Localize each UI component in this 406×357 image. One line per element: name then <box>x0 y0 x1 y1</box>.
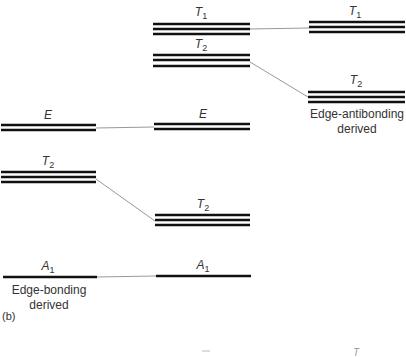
caption-edge-bonding: Edge-bonding derived <box>12 283 87 313</box>
level-right-t2 <box>308 92 405 102</box>
connector-t2-upper <box>250 62 308 97</box>
label-mid-t2-upper: T2 <box>195 38 207 53</box>
caption-line-1: Edge-bonding <box>12 283 87 298</box>
connector-t1 <box>250 28 309 29</box>
connector-t2-lower <box>96 179 155 221</box>
connector-e <box>96 127 154 128</box>
level-mid-t2-upper <box>153 55 250 66</box>
label-right-t2: T2 <box>350 74 362 89</box>
connector-a1 <box>97 276 156 277</box>
label-left-a1: A1 <box>41 260 54 275</box>
caption-line-2: derived <box>12 298 87 313</box>
label-left-e: E <box>44 109 52 121</box>
label-mid-t2-lower: T2 <box>197 198 209 213</box>
cropped-label-fragment: T <box>353 347 359 357</box>
level-left-t2 <box>1 172 96 182</box>
panel-label: (b) <box>2 310 15 322</box>
level-mid-t1 <box>153 24 250 34</box>
energy-levels <box>1 22 405 277</box>
label-mid-t1: T1 <box>195 6 207 21</box>
label-mid-e: E <box>199 108 207 120</box>
label-left-t2: T2 <box>42 155 54 170</box>
level-mid-e <box>154 124 250 129</box>
caption-line-1: Edge-antibonding <box>310 107 404 122</box>
level-left-e <box>1 125 96 130</box>
label-mid-a1: A1 <box>196 259 209 274</box>
level-mid-t2-lower <box>155 215 250 225</box>
label-right-t1: T1 <box>349 5 361 20</box>
level-right-t1 <box>309 22 405 32</box>
cropped-level-fragment <box>202 350 210 352</box>
caption-edge-antibonding: Edge-antibonding derived <box>310 107 404 137</box>
caption-line-2: derived <box>310 122 404 137</box>
